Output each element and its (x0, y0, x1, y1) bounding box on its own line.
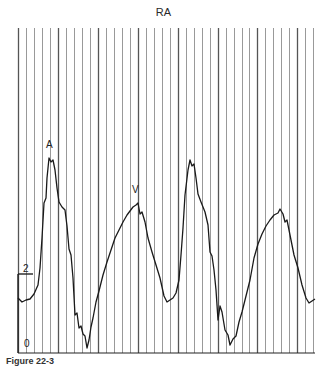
scale-top-label: 2 (23, 263, 29, 274)
v-wave-label: V (132, 184, 139, 195)
figure-caption: Figure 22-3 (6, 356, 54, 366)
scale-bracket (18, 274, 315, 353)
scale-bottom-label: 0 (24, 338, 30, 349)
a-wave-label: A (46, 139, 53, 150)
ra-waveform-line (18, 158, 315, 348)
vertical-gridlines (19, 28, 314, 353)
